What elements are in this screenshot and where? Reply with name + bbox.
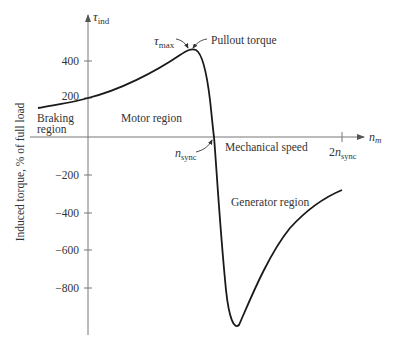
pullout-arrow [193,39,207,48]
torque-speed-chart: 400 200 −200 −400 −600 −800 τind nm Indu… [0,0,397,353]
motor-region-label: Motor region [121,112,182,125]
x-axis-label: Mechanical speed [225,141,308,154]
braking-region-label: region [37,123,67,136]
y-tick-label: −600 [55,244,79,256]
y-axis-symbol: τind [93,9,110,26]
y-tick-label: −400 [55,207,79,219]
pullout-torque-label: Pullout torque [211,34,277,47]
generator-region-label: Generator region [231,196,309,209]
x-tick-label-2nsync: 2nsync [329,145,357,161]
tau-max-arrow [176,39,188,48]
x-axis-symbol: nm [369,130,382,145]
y-tick-label: −200 [55,169,79,181]
y-axis-label: Induced torque, % of full load [14,102,27,241]
y-tick-label: 400 [62,55,80,67]
y-tick-label: −800 [55,282,79,294]
tau-max-label: τmax [154,33,175,50]
nsync-arrow [196,140,212,152]
torque-speed-curve [38,49,342,326]
nsync-label: nsync [175,146,197,162]
